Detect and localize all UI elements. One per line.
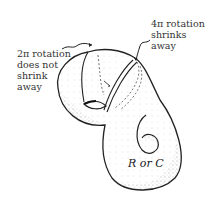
annotation-4pi: 4π rotation shrinks away [151, 18, 205, 51]
annotation-4pi-line-3: away [151, 40, 205, 51]
annotation-2pi-line-1: 2π rotation [17, 48, 71, 59]
annotation-4pi-line-1: 4π rotation [151, 18, 205, 29]
annotation-2pi-line-2: does not [17, 59, 71, 70]
annotation-2pi: 2π rotation does not shrink away [17, 48, 71, 92]
annotation-2pi-line-3: shrink [17, 70, 71, 81]
space-label: R or C [128, 158, 164, 169]
callout-right [134, 40, 150, 61]
annotation-4pi-line-2: shrinks [151, 29, 205, 40]
annotation-2pi-line-4: away [17, 81, 71, 92]
